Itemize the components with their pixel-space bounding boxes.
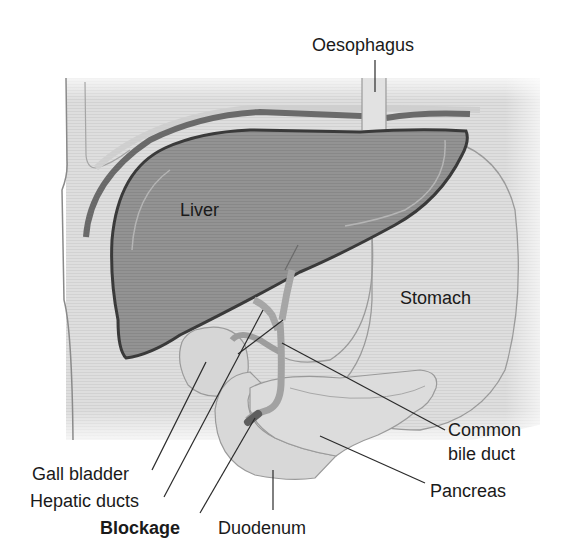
label-pancreas: Pancreas [430,482,506,500]
label-duodenum: Duodenum [218,519,306,537]
label-hepatic-ducts: Hepatic ducts [30,492,139,510]
label-gall-bladder: Gall bladder [32,465,129,483]
label-stomach: Stomach [400,289,471,307]
label-common-bile-duct: Common bile duct [448,418,521,466]
label-oesophagus: Oesophagus [312,36,414,54]
oesophagus [362,78,386,130]
label-liver: Liver [180,201,219,219]
label-blockage: Blockage [100,519,180,537]
